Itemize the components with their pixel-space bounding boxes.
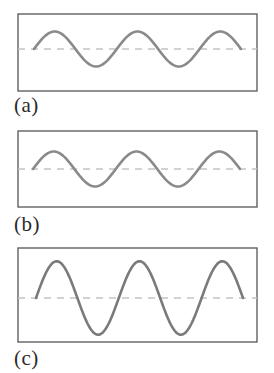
panel-b-label: (b) [14,214,40,235]
panel-a [18,14,257,91]
panel-b [18,131,257,207]
waveform-figure [0,0,274,373]
panel-c-label: (c) [14,348,39,369]
panel-a-label: (a) [14,95,39,116]
panel-c [18,248,257,342]
panel-a-frame [18,14,257,91]
